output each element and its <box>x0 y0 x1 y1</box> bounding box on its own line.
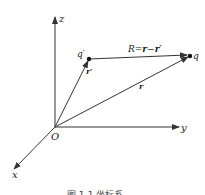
x-axis <box>14 127 55 169</box>
z-axis-label: z <box>58 13 65 24</box>
q-label: q <box>193 51 199 61</box>
field-point-q <box>188 54 192 58</box>
q-prime-label: q′ <box>77 49 85 59</box>
r-label: r <box>139 81 144 91</box>
source-point-q-prime <box>87 57 91 61</box>
x-axis-label: x <box>12 169 18 180</box>
r-prime-vector <box>55 61 88 127</box>
R-equation-label: R=r−r′ <box>127 44 162 54</box>
R-vector <box>89 55 187 59</box>
origin-label: O <box>51 131 59 142</box>
r-prime-label: r′ <box>86 66 93 76</box>
figure-caption: 图 1-1 坐标系 <box>67 189 123 195</box>
y-axis-label: y <box>180 122 187 133</box>
diagram-canvas: z y x O q′ q r′ r R=r−r′ 图 1-1 坐标系 <box>0 0 205 195</box>
r-vector <box>55 57 188 127</box>
